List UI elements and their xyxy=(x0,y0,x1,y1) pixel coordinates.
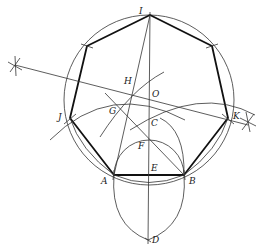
arc-large-left xyxy=(50,104,185,140)
label-C: C xyxy=(151,118,158,128)
label-B: B xyxy=(188,176,196,186)
label-F: F xyxy=(137,141,145,151)
label-D: D xyxy=(151,235,159,245)
vertical-bisector xyxy=(148,12,150,244)
label-J: J xyxy=(56,112,63,122)
label-I: I xyxy=(138,6,143,16)
label-K: K xyxy=(232,111,241,121)
arc-B-to-C xyxy=(160,118,184,175)
label-G: G xyxy=(109,106,116,116)
label-O: O xyxy=(152,89,160,99)
diagram-canvas: I J K H O G C F E A B D xyxy=(0,0,263,249)
label-E: E xyxy=(150,163,158,173)
heptagon-construction-diagram: I J K H O G C F E A B D xyxy=(0,0,263,249)
label-A: A xyxy=(100,176,108,186)
star-mark-right xyxy=(240,112,256,132)
label-H: H xyxy=(123,76,132,86)
perpendicular-bisector-line xyxy=(15,65,248,125)
